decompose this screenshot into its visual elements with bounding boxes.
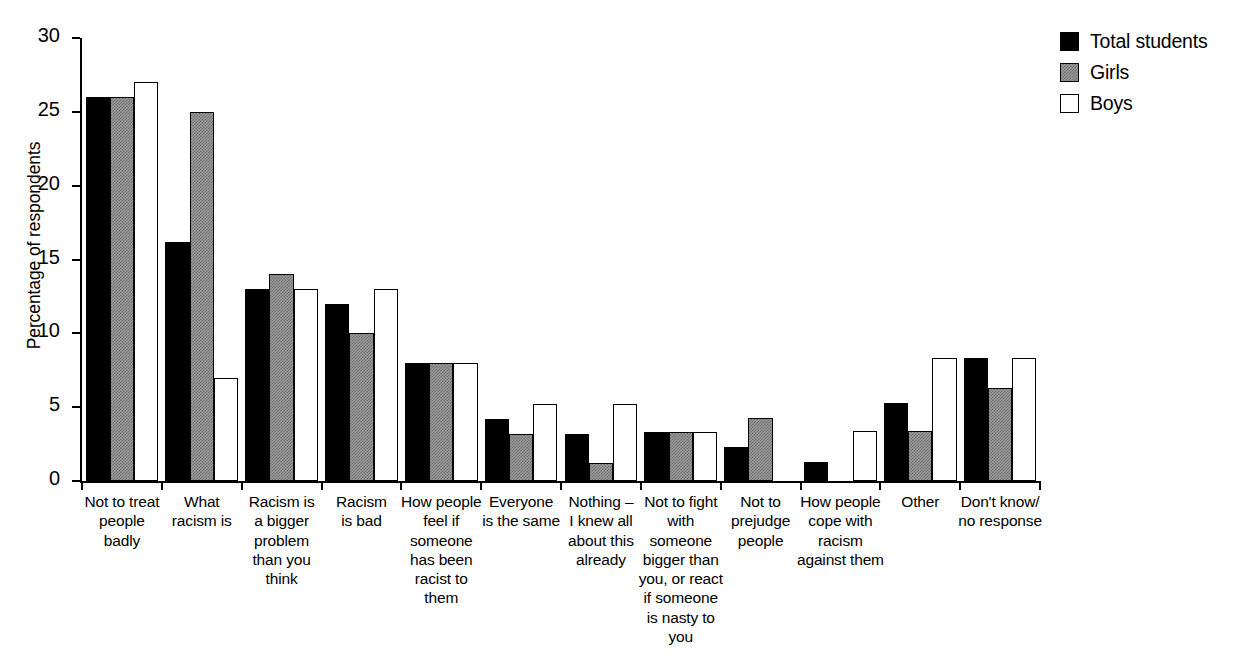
legend-item[interactable]: Girls (1060, 57, 1243, 88)
category-label-line: than you (235, 550, 329, 569)
bar-boys (214, 378, 238, 481)
bar-total (245, 289, 269, 481)
category-label-line: cope with (794, 511, 888, 530)
x-tick (161, 481, 163, 490)
legend-swatch-boys-icon (1060, 94, 1079, 113)
legend-label: Boys (1090, 92, 1133, 115)
category-label-line: racist to (394, 569, 488, 588)
x-tick (321, 481, 323, 490)
bar-boys (1012, 358, 1036, 481)
x-tick (800, 481, 802, 490)
bar-group (721, 38, 801, 481)
bar-group (242, 38, 322, 481)
x-tick (560, 481, 562, 490)
bar-boys (374, 289, 398, 481)
x-tick (959, 481, 961, 490)
y-tick-label: 5 (20, 393, 60, 416)
bar-total (405, 363, 429, 481)
bar-boys (932, 358, 956, 481)
bar-girls (589, 463, 613, 481)
category-label-line: no response (953, 511, 1047, 530)
category-label-line: if someone (634, 588, 728, 607)
y-tick: 10 (72, 332, 80, 334)
bar-group (322, 38, 402, 481)
category-label-line: badly (75, 531, 169, 550)
category-label-line: against them (794, 550, 888, 569)
x-tick (1039, 481, 1041, 490)
bar-total (165, 242, 189, 481)
x-tick (640, 481, 642, 490)
bar-girls (110, 97, 134, 481)
x-tick (241, 481, 243, 490)
legend-label: Girls (1090, 61, 1129, 84)
category-label-line: bigger than (634, 550, 728, 569)
bar-total (325, 304, 349, 481)
y-tick-label: 10 (20, 319, 60, 342)
category-label-line: Don't know/ (953, 492, 1047, 511)
y-tick: 30 (72, 37, 80, 39)
legend-item[interactable]: Boys (1060, 88, 1243, 119)
bar-group (880, 38, 960, 481)
legend-swatch-girls-icon (1060, 63, 1079, 82)
bar-girls (429, 363, 453, 481)
bar-girls (269, 274, 293, 481)
category-label-line: think (235, 569, 329, 588)
bar-boys (453, 363, 477, 481)
y-tick: 20 (72, 185, 80, 187)
plot-area: 051015202530 (82, 38, 1040, 481)
y-tick-label: 25 (20, 98, 60, 121)
bar-total (804, 462, 828, 481)
x-tick (81, 481, 83, 490)
bar-girls (669, 432, 693, 481)
y-tick-label: 20 (20, 172, 60, 195)
category-label: Don't know/no response (953, 492, 1047, 531)
category-label-line: has been (394, 550, 488, 569)
legend-swatch-total-icon (1060, 32, 1079, 51)
bar-group (481, 38, 561, 481)
bar-boys (693, 432, 717, 481)
x-tick (720, 481, 722, 490)
legend-item[interactable]: Total students (1060, 26, 1243, 57)
x-tick (400, 481, 402, 490)
bar-girls (908, 431, 932, 481)
bar-total (565, 434, 589, 481)
bar-group (641, 38, 721, 481)
x-tick (480, 481, 482, 490)
bar-girls (349, 333, 373, 481)
bar-girls (988, 388, 1012, 481)
bar-boys (533, 404, 557, 481)
x-axis-category-labels: Not to treatpeoplebadlyWhatracism isRaci… (82, 492, 1040, 667)
y-tick: 25 (72, 111, 80, 113)
bar-group (162, 38, 242, 481)
bar-total (86, 97, 110, 481)
y-tick: 15 (72, 259, 80, 261)
bar-girls (748, 418, 772, 481)
category-label-line: racism (794, 531, 888, 550)
bar-total (724, 447, 748, 481)
x-tick (879, 481, 881, 490)
bar-boys (853, 431, 877, 481)
bar-group (561, 38, 641, 481)
y-tick: 0 (72, 480, 80, 482)
bar-boys (294, 289, 318, 481)
category-label-line: is nasty to (634, 608, 728, 627)
y-tick-label: 15 (20, 246, 60, 269)
bar-group (801, 38, 881, 481)
legend-label: Total students (1090, 30, 1208, 53)
y-tick-label: 0 (20, 467, 60, 490)
category-label-line: them (394, 588, 488, 607)
category-label-line: you, or react (634, 569, 728, 588)
category-label-line: problem (235, 531, 329, 550)
bar-total (485, 419, 509, 481)
bar-boys (613, 404, 637, 481)
bar-girls (509, 434, 533, 481)
category-label-line: you (634, 627, 728, 646)
bar-boys (134, 82, 158, 481)
bar-chart: Percentage of respondents 051015202530 N… (0, 0, 1243, 667)
bar-total (644, 432, 668, 481)
bar-girls (190, 112, 214, 481)
bar-group (82, 38, 162, 481)
chart-legend: Total studentsGirlsBoys (1060, 26, 1243, 119)
y-tick-label: 30 (20, 24, 60, 47)
bar-total (884, 403, 908, 481)
